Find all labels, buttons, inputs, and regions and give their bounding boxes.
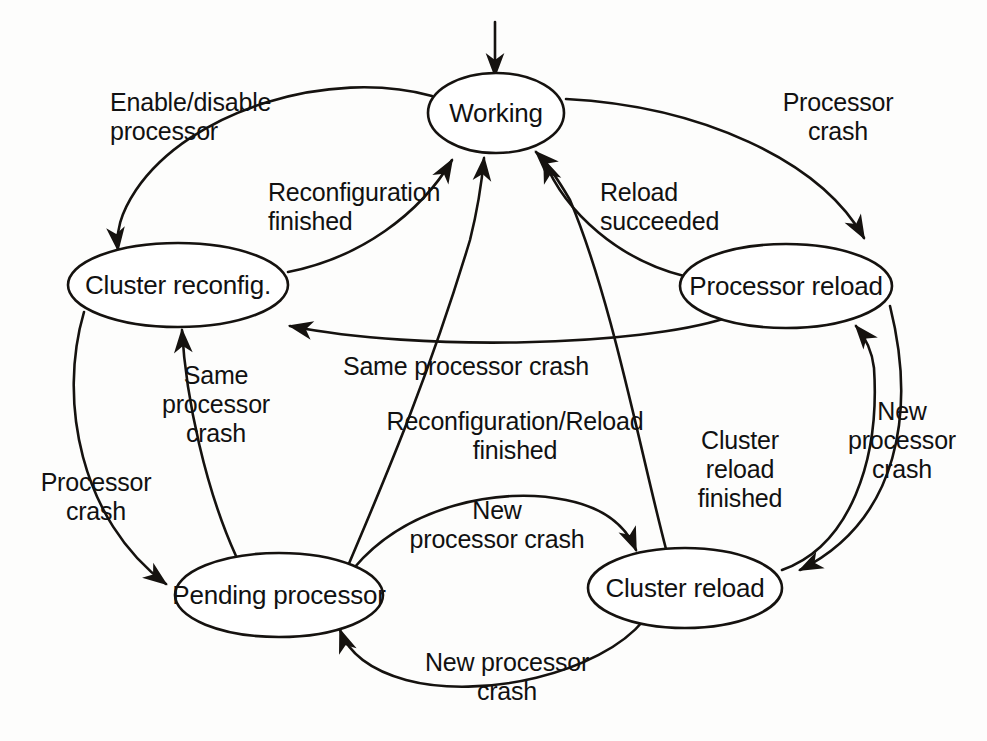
state-cluster-reconfig[interactable] [68,243,288,327]
edge-cluster-reconfig-to-working-label: Reconfiguration finished [268,178,440,236]
edge-pending-processor-to-cluster-reload-label: New processor crash [410,496,585,554]
edge-cluster-reconfig-to-pending-processor-label: Processor crash [41,468,152,526]
edge-cluster-reconfig-to-pending-processor [74,312,166,584]
state-pending-processor[interactable] [175,553,383,637]
edge-processor-reload-to-working-label: Reload succeeded [600,178,719,236]
edge-processor-reload-to-cluster-reconfig-label: Same processor crash [343,352,589,381]
edge-working-to-cluster-reconfig-label: Enable/disable processor [110,88,271,146]
state-working[interactable] [428,73,564,153]
state-processor-reload[interactable] [680,244,892,328]
edge-pending-processor-to-cluster-reconfig-label: Same processor crash [162,361,270,448]
state-diagram-canvas: WorkingCluster reconfig.Processor reload… [0,0,987,741]
edge-pending-processor-to-working-label: Reconfiguration/Reload finished [387,407,644,465]
edge-processor-reload-to-cluster-reconfig [290,318,726,343]
edge-cluster-reload-to-pending-processor-label: New processor crash [425,648,589,706]
edge-cluster-reload-to-working-label: Cluster reload finished [698,426,783,513]
state-cluster-reload[interactable] [588,548,782,628]
edge-cluster-reload-to-processor-reload-label: New processor crash [848,397,956,484]
edge-working-to-processor-reload-label: Processor crash [783,88,894,146]
